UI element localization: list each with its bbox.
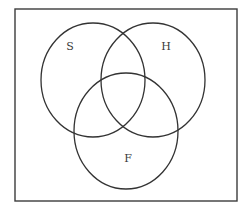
set-s-circle [41,23,145,137]
set-f-label: F [124,152,132,165]
set-s-label: S [66,40,74,53]
set-h-circle [101,23,205,137]
set-f-circle [74,73,178,189]
set-h-label: H [161,40,171,53]
venn-diagram: S H F [0,0,250,216]
universe-rectangle [15,9,237,201]
